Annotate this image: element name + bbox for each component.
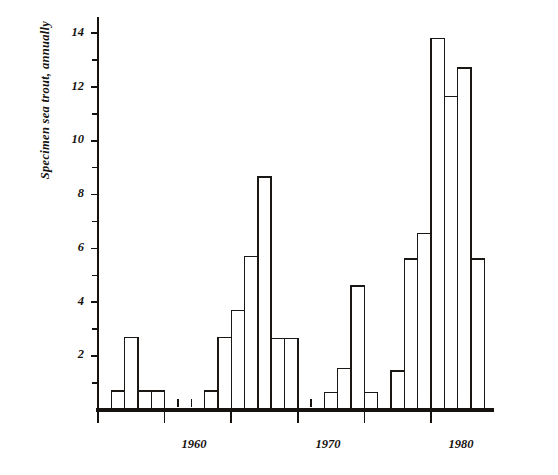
bar-1968 (271, 339, 284, 410)
bar-1980 (431, 38, 444, 410)
bar-1963 (205, 391, 218, 410)
y-axis-title: Specimen sea trout, annually (38, 0, 53, 300)
bar-1967 (258, 177, 271, 410)
bar-1966 (245, 257, 258, 411)
bar-1982 (458, 68, 471, 410)
bar-1956 (111, 391, 124, 410)
bar-1973 (338, 368, 351, 410)
y-tick-label-14: 14 (58, 26, 84, 39)
y-tick-label-4: 4 (58, 295, 84, 308)
y-tick-label-10: 10 (58, 133, 84, 146)
bar-1977 (391, 371, 404, 410)
bar-1964 (218, 337, 231, 410)
y-tick-label-12: 12 (58, 80, 84, 93)
bar-1974 (351, 286, 364, 410)
y-tick-label-2: 2 (58, 348, 84, 361)
bar-1981 (444, 96, 457, 410)
chart-figure: Specimen sea trout, annually 14 12 10 8 … (0, 0, 558, 475)
bar-1958 (138, 391, 151, 410)
x-tick-label-1960: 1960 (164, 438, 224, 451)
bar-1978 (404, 259, 417, 410)
bar-1969 (284, 339, 297, 410)
bars-group (111, 38, 484, 410)
bar-1957 (125, 337, 138, 410)
bar-1959 (151, 391, 164, 410)
x-tick-label-1970: 1970 (298, 438, 358, 451)
bar-1972 (324, 393, 337, 411)
x-tick-label-1980: 1980 (431, 438, 491, 451)
bar-1983 (471, 259, 484, 410)
y-tick-label-8: 8 (58, 187, 84, 200)
y-axis (91, 17, 98, 408)
bar-1979 (418, 234, 431, 410)
y-tick-label-6: 6 (58, 241, 84, 254)
bar-1965 (231, 310, 244, 410)
plot-area (0, 0, 558, 475)
bar-1975 (364, 393, 377, 411)
